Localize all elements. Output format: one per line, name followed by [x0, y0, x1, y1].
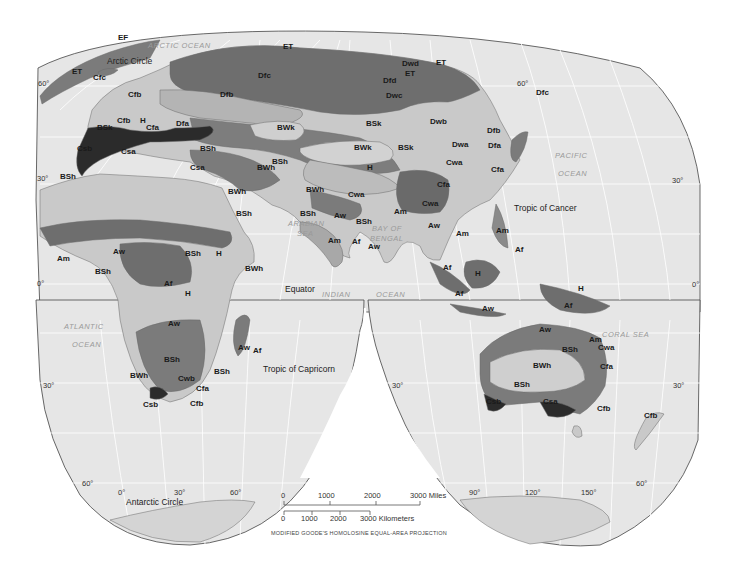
climate-label: Cfb	[190, 400, 203, 408]
climate-label: Aw	[368, 243, 380, 251]
climate-label: Cwa	[598, 344, 614, 352]
climate-label: Cfa	[146, 124, 159, 132]
climate-label: H	[216, 250, 222, 258]
deg-n60-right: 60°	[517, 80, 528, 88]
scale-km-0: 0	[281, 515, 285, 523]
climate-map	[0, 0, 735, 575]
climate-label: Cwa	[446, 159, 462, 167]
deg-s60-left: 60°	[82, 480, 93, 488]
climate-label: Csb	[486, 398, 501, 406]
climate-label: Csa	[543, 398, 558, 406]
climate-label: BWh	[245, 265, 263, 273]
climate-label: BWh	[533, 362, 551, 370]
deg-s30-left: 30°	[43, 382, 54, 390]
deg-s30-mid: 30°	[392, 382, 403, 390]
ocean-label-atlantic: ATLANTIC	[64, 323, 104, 331]
climate-label: BSh	[60, 173, 76, 181]
climate-label: H	[367, 164, 373, 172]
climate-label: Aw	[482, 305, 494, 313]
climate-label: Dfb	[487, 127, 500, 135]
climate-label: Af	[455, 290, 463, 298]
climate-label: Csa	[190, 164, 205, 172]
ocean-label-indian-2: OCEAN	[376, 291, 405, 299]
deg-lon-0: 0°	[118, 489, 125, 497]
scale-miles-1000: 1000	[318, 492, 335, 500]
climate-label: Dwa	[452, 141, 468, 149]
ocean-label-pacific-2: OCEAN	[558, 170, 587, 178]
climate-label: BSh	[200, 145, 216, 153]
climate-label: Af	[564, 302, 572, 310]
deg-eq-left: 0°	[37, 280, 44, 288]
deg-lon-150: 150°	[581, 489, 597, 497]
climate-label: Cwa	[422, 200, 438, 208]
climate-label: H	[578, 285, 584, 293]
scale-miles-2000: 2000	[364, 492, 381, 500]
climate-label: BWh	[306, 186, 324, 194]
climate-label: Af	[443, 264, 451, 272]
ocean-label-atlantic-2: OCEAN	[72, 341, 101, 349]
climate-label: Cfc	[93, 74, 106, 82]
climate-label: BSh	[164, 356, 180, 364]
climate-label: BSh	[185, 250, 201, 258]
climate-label: BWh	[257, 164, 275, 172]
climate-label: Aw	[238, 344, 250, 352]
ocean-label-bengal: BAY OF	[372, 225, 402, 233]
climate-label: BSh	[300, 210, 316, 218]
ocean-label-coral: CORAL SEA	[602, 331, 649, 339]
climate-label: Cfb	[644, 412, 657, 420]
ocean-label-arctic: ARCTIC OCEAN	[148, 42, 211, 50]
climate-label: BSh	[95, 268, 111, 276]
climate-label: Af	[352, 238, 360, 246]
climate-label: Aw	[113, 248, 125, 256]
climate-label: BSh	[214, 368, 230, 376]
climate-label: Dfd	[383, 77, 396, 85]
climate-label: Dwd	[402, 60, 419, 68]
deg-lon-120: 120°	[525, 489, 541, 497]
label-tropic-of-cancer: Tropic of Cancer	[514, 204, 577, 213]
climate-label: BSh	[514, 381, 530, 389]
climate-label: Csa	[121, 148, 136, 156]
climate-label: H	[140, 117, 146, 125]
ocean-label-arabian-2: SEA	[297, 230, 314, 238]
climate-label: EF	[118, 34, 128, 42]
climate-label: Cfa	[196, 385, 209, 393]
climate-label: BSk	[398, 144, 414, 152]
climate-label: Aw	[539, 326, 551, 334]
climate-label: Cfb	[128, 91, 141, 99]
climate-label: H	[475, 270, 481, 278]
climate-label: Am	[328, 237, 341, 245]
scale-km-3000: 3000 Kilometers	[360, 515, 414, 523]
climate-label: Aw	[334, 212, 346, 220]
australia-bwh	[490, 349, 585, 392]
deg-lon-30: 30°	[174, 489, 185, 497]
label-arctic-circle: Arctic Circle	[107, 57, 152, 66]
climate-label: Cwb	[178, 375, 195, 383]
climate-label: Am	[394, 208, 407, 216]
climate-label: Am	[456, 230, 469, 238]
climate-label: Am	[496, 227, 509, 235]
ocean-label-arabian: ARABIAN	[288, 220, 324, 228]
ocean-label-pacific: PACIFIC	[555, 152, 588, 160]
scale-miles-0: 0	[281, 492, 285, 500]
ocean-label-indian: INDIAN	[322, 291, 350, 299]
deg-lon-60: 60°	[230, 489, 241, 497]
deg-eq-right: 0°	[692, 281, 699, 289]
climate-label: Dwc	[386, 92, 402, 100]
climate-label: Aw	[168, 320, 180, 328]
deg-s30-right: 30°	[673, 382, 684, 390]
climate-label: ET	[405, 70, 415, 78]
label-tropic-of-capricorn: Tropic of Capricorn	[263, 365, 335, 374]
label-equator: Equator	[285, 285, 315, 294]
climate-label: Cfa	[437, 181, 450, 189]
climate-label: BWh	[130, 372, 148, 380]
climate-label: BSh	[236, 210, 252, 218]
climate-label: Dfa	[488, 142, 501, 150]
climate-label: BWk	[277, 124, 295, 132]
projection-note: MODIFIED GOODE'S HOMOLOSINE EQUAL-AREA P…	[271, 530, 447, 536]
climate-label: Cfb	[117, 117, 130, 125]
climate-label: Cfa	[600, 363, 613, 371]
climate-label: Cwa	[348, 191, 364, 199]
climate-label: ET	[436, 59, 446, 67]
climate-label: Aw	[428, 222, 440, 230]
deg-lon-90: 90°	[469, 489, 480, 497]
